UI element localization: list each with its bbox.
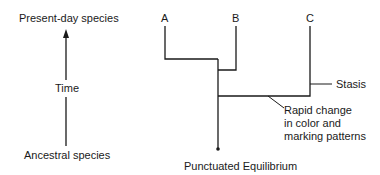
ancestral-species-label: Ancestral species [24,149,110,161]
rapid-change-label-3: marking patterns [284,130,366,142]
time-label: Time [55,82,79,94]
arrowhead-icon [63,29,69,38]
species-b-label: B [232,12,239,24]
rapid-change-label-1: Rapid change [284,104,352,116]
branch-c [218,26,310,96]
ancestor-dot [216,147,220,151]
stasis-label: Stasis [336,78,366,90]
present-day-species-label: Present-day species [19,12,119,24]
branch-b [218,26,236,70]
rapid-change-leader [268,96,284,108]
species-c-label: C [306,12,314,24]
species-a-label: A [161,12,168,24]
diagram-title: Punctuated Equilibrium [184,160,297,172]
rapid-change-label-2: in color and [284,117,341,129]
branch-a [165,26,218,59]
